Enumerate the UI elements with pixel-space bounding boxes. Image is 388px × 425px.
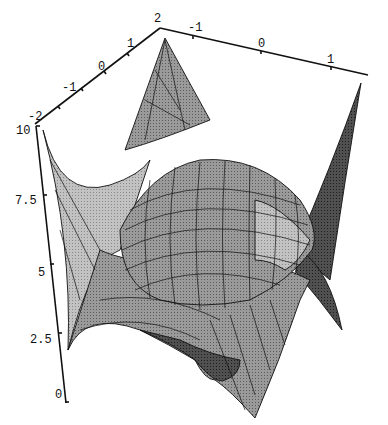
svg-text:-2: -2	[28, 110, 42, 124]
svg-text:0: 0	[55, 388, 62, 402]
y-axis	[160, 28, 368, 75]
surface-back-spike	[125, 38, 210, 150]
svg-text:10: 10	[16, 124, 30, 138]
svg-text:1: 1	[127, 37, 134, 51]
svg-text:0: 0	[98, 60, 105, 74]
svg-text:7.5: 7.5	[15, 194, 37, 208]
surface-plot: -2 -1 0 1 2 -1 0 1 10 7.5 5 2.5 0	[0, 0, 388, 425]
surface	[43, 38, 361, 418]
svg-text:5: 5	[38, 266, 45, 280]
y-tick-labels: -1 0 1	[188, 21, 334, 67]
svg-text:0: 0	[258, 37, 265, 51]
svg-text:-1: -1	[188, 21, 202, 35]
svg-text:2: 2	[154, 12, 161, 26]
svg-text:2.5: 2.5	[30, 333, 52, 347]
svg-text:-1: -1	[62, 81, 76, 95]
svg-text:1: 1	[327, 53, 334, 67]
